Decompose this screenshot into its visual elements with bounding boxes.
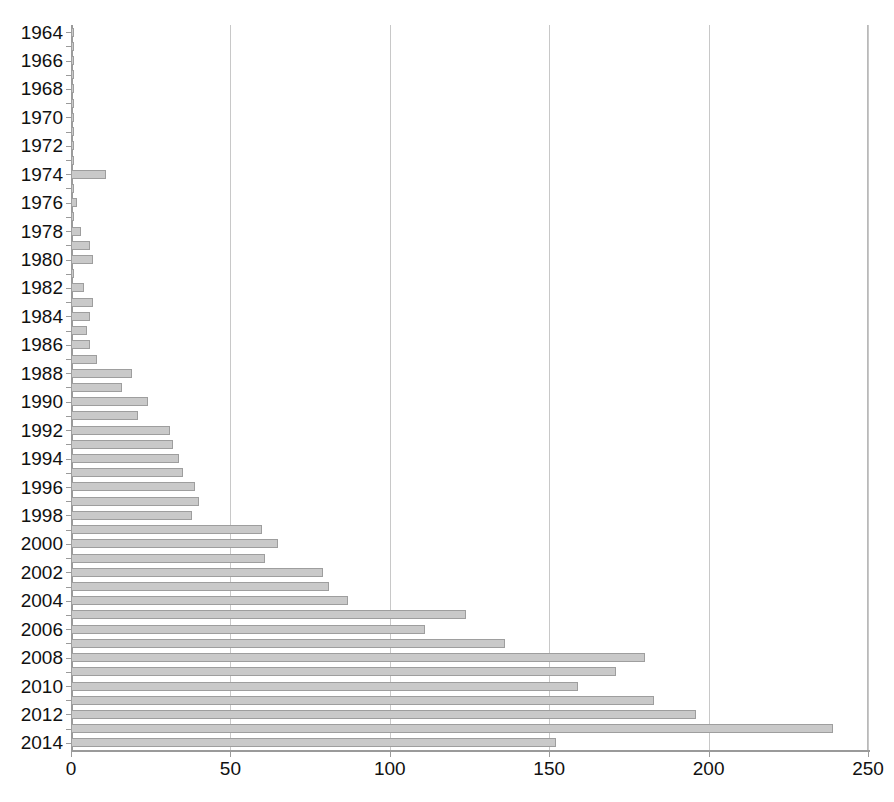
x-axis-tick-0 [71, 750, 72, 757]
bar-2009[interactable] [71, 667, 616, 676]
bar-1979[interactable] [71, 241, 90, 250]
bar-1970[interactable] [71, 113, 74, 122]
y-axis-label-1998: 1998 [21, 506, 63, 525]
bar-2014[interactable] [71, 738, 556, 747]
bar-row [71, 395, 868, 409]
y-axis-label-1964: 1964 [21, 23, 63, 42]
bar-1993[interactable] [71, 440, 173, 449]
chart-title [0, 0, 1, 1]
bar-1972[interactable] [71, 141, 74, 150]
bar-2012[interactable] [71, 710, 696, 719]
chart-ylabel [0, 0, 1, 1]
bar-1984[interactable] [71, 312, 90, 321]
y-axis-label-1982: 1982 [21, 278, 63, 297]
bar-2000[interactable] [71, 539, 278, 548]
bar-row [71, 338, 868, 352]
bar-2006[interactable] [71, 625, 425, 634]
bar-row [71, 494, 868, 508]
bar-1969[interactable] [71, 99, 74, 108]
bar-row [71, 665, 868, 679]
bar-1988[interactable] [71, 369, 132, 378]
bar-1985[interactable] [71, 326, 87, 335]
bar-row [71, 252, 868, 266]
bar-2003[interactable] [71, 582, 329, 591]
y-axis-label-1974: 1974 [21, 165, 63, 184]
x-axis-label-0: 0 [66, 758, 77, 780]
y-axis-label-1994: 1994 [21, 449, 63, 468]
bar-2002[interactable] [71, 568, 323, 577]
bar-row [71, 139, 868, 153]
x-axis-label-50: 50 [220, 758, 241, 780]
bar-1996[interactable] [71, 482, 195, 491]
bar-1989[interactable] [71, 383, 122, 392]
x-axis-labels: 050100150200250 [0, 758, 894, 788]
bar-2010[interactable] [71, 682, 578, 691]
bar-2004[interactable] [71, 596, 348, 605]
bar-1994[interactable] [71, 454, 179, 463]
y-axis-label-2014: 2014 [21, 733, 63, 752]
y-axis-label-1990: 1990 [21, 392, 63, 411]
bar-2007[interactable] [71, 639, 505, 648]
bar-row [71, 210, 868, 224]
bar-row [71, 480, 868, 494]
bar-1983[interactable] [71, 298, 93, 307]
y-axis-label-2000: 2000 [21, 534, 63, 553]
y-axis-label-1966: 1966 [21, 51, 63, 70]
bar-1997[interactable] [71, 497, 199, 506]
bar-1967[interactable] [71, 70, 74, 79]
bar-row [71, 466, 868, 480]
bar-1999[interactable] [71, 525, 262, 534]
bar-1978[interactable] [71, 227, 81, 236]
x-axis-tick-100 [390, 750, 391, 757]
bar-1991[interactable] [71, 411, 138, 420]
bar-row [71, 295, 868, 309]
bar-1965[interactable] [71, 42, 74, 51]
bar-1973[interactable] [71, 156, 74, 165]
bar-1976[interactable] [71, 198, 77, 207]
bar-1971[interactable] [71, 127, 74, 136]
bar-1995[interactable] [71, 468, 183, 477]
bar-1974[interactable] [71, 170, 106, 179]
y-axis-label-1976: 1976 [21, 193, 63, 212]
y-axis-label-2006: 2006 [21, 620, 63, 639]
bar-1968[interactable] [71, 84, 74, 93]
x-axis-tick-150 [549, 750, 550, 757]
bar-1977[interactable] [71, 212, 74, 221]
bar-2011[interactable] [71, 696, 654, 705]
x-axis-label-250: 250 [852, 758, 884, 780]
bar-row [71, 196, 868, 210]
y-axis-label-2004: 2004 [21, 591, 63, 610]
bar-1998[interactable] [71, 511, 192, 520]
x-axis-tick-250 [868, 750, 869, 757]
bar-2005[interactable] [71, 610, 466, 619]
bar-2013[interactable] [71, 724, 833, 733]
y-axis-label-1996: 1996 [21, 478, 63, 497]
bar-row [71, 636, 868, 650]
bar-row [71, 352, 868, 366]
y-axis-label-1980: 1980 [21, 250, 63, 269]
bar-1987[interactable] [71, 355, 97, 364]
bar-row [71, 736, 868, 750]
bar-1964[interactable] [71, 28, 74, 37]
bar-1982[interactable] [71, 283, 84, 292]
bar-row [71, 324, 868, 338]
bar-row [71, 366, 868, 380]
bar-row [71, 68, 868, 82]
bar-1966[interactable] [71, 56, 74, 65]
plot-area [71, 25, 868, 750]
bar-2001[interactable] [71, 554, 265, 563]
bar-1990[interactable] [71, 397, 148, 406]
bar-1975[interactable] [71, 184, 74, 193]
bar-2008[interactable] [71, 653, 645, 662]
y-axis-label-2012: 2012 [21, 705, 63, 724]
bar-row [71, 82, 868, 96]
bar-row [71, 722, 868, 736]
bar-chart: 1964196619681970197219741976197819801982… [0, 0, 894, 802]
bar-row [71, 39, 868, 53]
bar-1981[interactable] [71, 269, 74, 278]
bar-1980[interactable] [71, 255, 93, 264]
bar-1992[interactable] [71, 426, 170, 435]
bar-row [71, 565, 868, 579]
bar-1986[interactable] [71, 340, 90, 349]
bar-row [71, 679, 868, 693]
